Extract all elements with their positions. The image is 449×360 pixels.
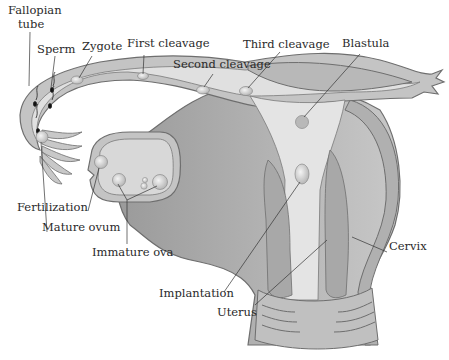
zygote-cell	[71, 76, 83, 84]
label-mature-ovum: Mature ovum	[42, 221, 120, 234]
immature-ovum-cell	[113, 174, 126, 187]
second-cleavage-cell	[197, 86, 210, 94]
third-cleavage-cell	[240, 87, 253, 96]
label-blastula: Blastula	[342, 37, 389, 50]
blastula-cell	[296, 116, 309, 129]
immature-ovum-cell	[142, 177, 147, 182]
label-uterus: Uterus	[217, 306, 257, 319]
label-first-cleavage: First cleavage	[127, 37, 210, 50]
label-zygote: Zygote	[82, 40, 122, 53]
label-fertilization: Fertilization	[17, 201, 88, 214]
label-third-cleavage: Third cleavage	[243, 38, 330, 51]
fertilized-egg	[36, 131, 48, 143]
label-second-cleavage: Second cleavage	[173, 58, 271, 71]
mature-ovum-cell	[95, 156, 108, 169]
label-immature-ova: Immature ova	[92, 246, 173, 259]
label-fallopian-tube-line2: tube	[18, 18, 44, 31]
label-sperm: Sperm	[37, 43, 75, 56]
label-cervix: Cervix	[389, 240, 427, 253]
label-fallopian-tube-line1: Fallopian	[8, 4, 62, 17]
label-implantation: Implantation	[159, 287, 234, 300]
implanted-embryo	[295, 164, 309, 184]
immature-ovum-cell	[141, 183, 147, 189]
